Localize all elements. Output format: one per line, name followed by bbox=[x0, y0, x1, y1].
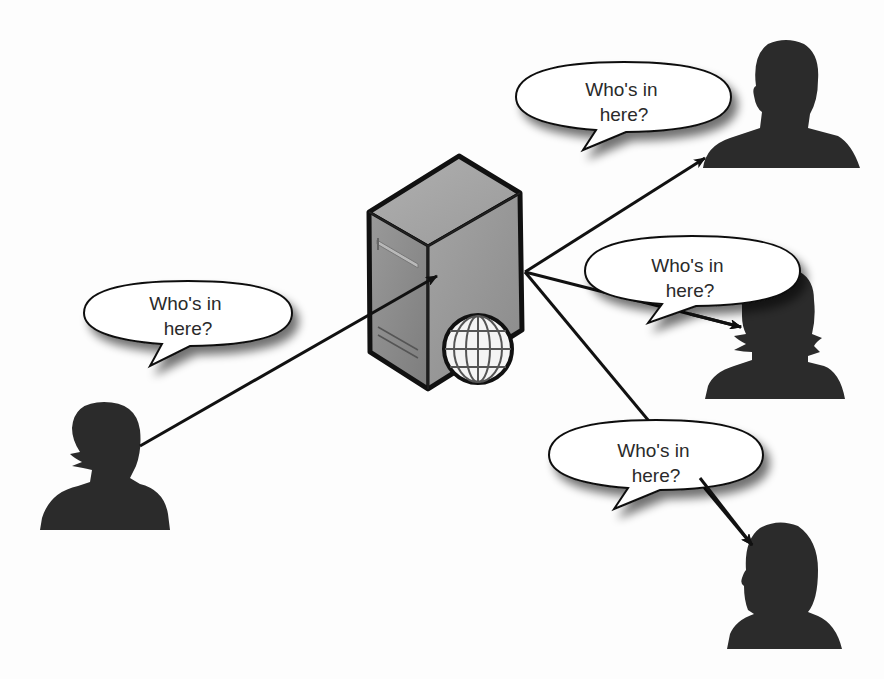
web-server bbox=[369, 156, 522, 389]
arrow-server-to-middle-right-overlay bbox=[690, 314, 741, 327]
person-bottom-right bbox=[727, 522, 842, 649]
arrow-server-to-bottom-right bbox=[525, 272, 752, 545]
woman-silhouette-icon bbox=[727, 522, 842, 649]
person-left bbox=[40, 402, 170, 530]
network-diagram: Who's in here? Who's in here? Who's in h… bbox=[0, 0, 884, 679]
globe-icon bbox=[444, 315, 512, 383]
woman-silhouette-icon bbox=[40, 402, 170, 530]
arrow-server-to-bottom-right-overlay bbox=[700, 478, 752, 545]
